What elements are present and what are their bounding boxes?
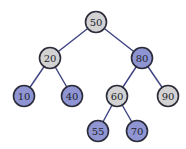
node-label: 55 <box>92 126 105 137</box>
tree-node-90: 90 <box>158 86 179 107</box>
node-label: 50 <box>90 17 103 28</box>
node-label: 10 <box>18 91 31 102</box>
node-label: 90 <box>162 91 175 102</box>
node-label: 70 <box>131 126 144 137</box>
tree-node-80: 80 <box>132 48 153 69</box>
tree-node-60: 60 <box>107 86 128 107</box>
tree-node-40: 40 <box>62 86 83 107</box>
node-label: 80 <box>136 53 149 64</box>
node-label: 20 <box>44 53 57 64</box>
tree-node-70: 70 <box>127 121 148 142</box>
tree-diagram: 50 20 80 10 40 60 90 55 70 <box>0 0 186 149</box>
tree-node-10: 10 <box>14 86 35 107</box>
edges <box>24 22 168 131</box>
node-label: 60 <box>111 91 124 102</box>
tree-node-20: 20 <box>40 48 61 69</box>
tree-node-55: 55 <box>88 121 109 142</box>
tree-node-50: 50 <box>86 12 107 33</box>
node-label: 40 <box>66 91 79 102</box>
